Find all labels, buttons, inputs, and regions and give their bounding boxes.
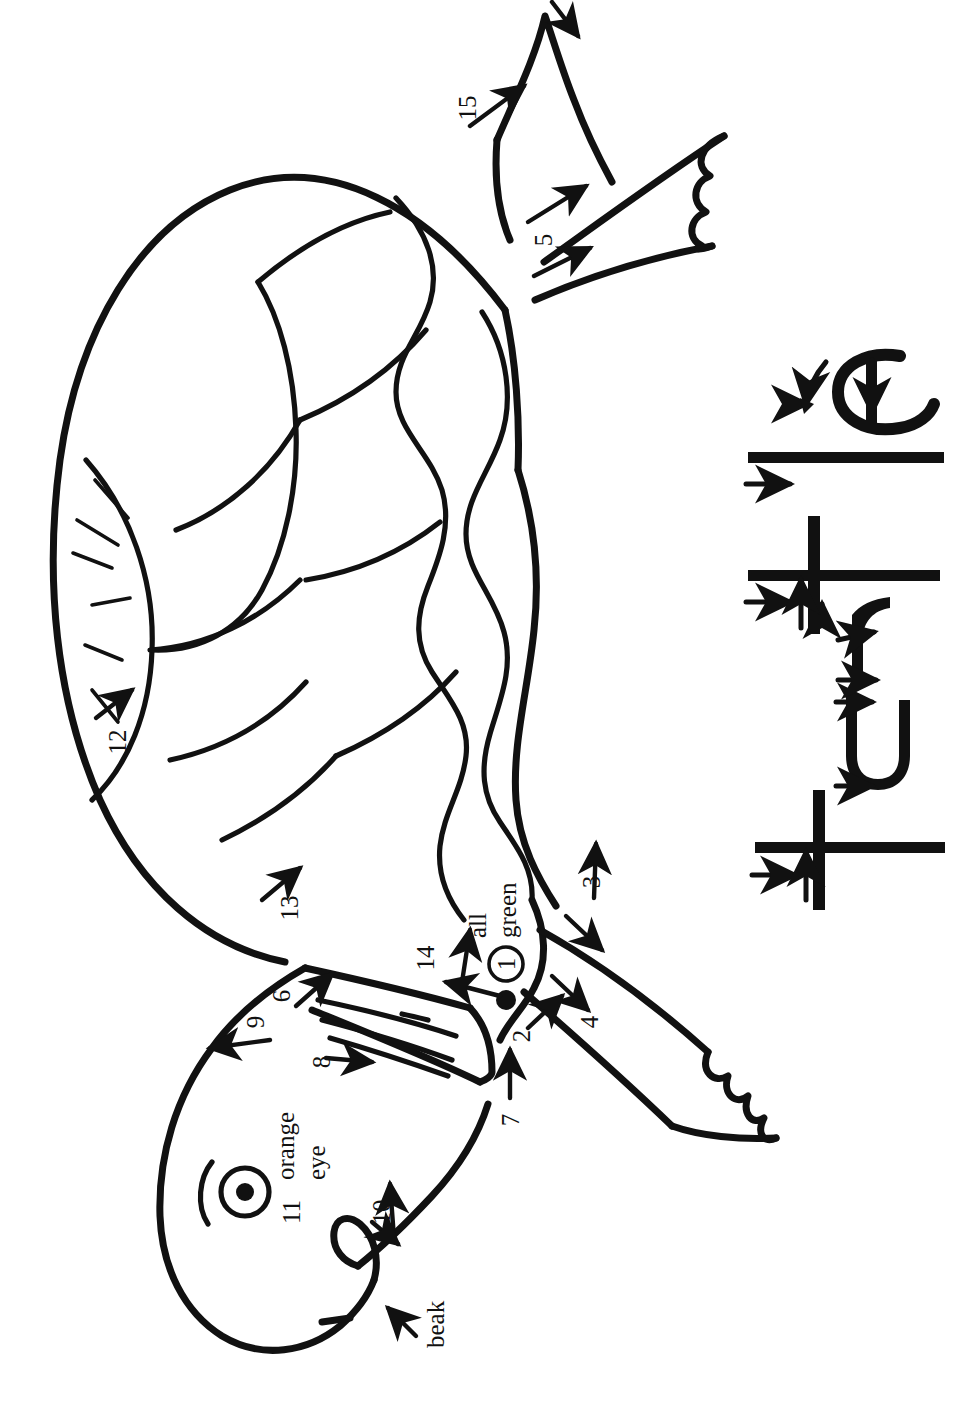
label-9: 9 bbox=[242, 1016, 269, 1029]
all-green-line1: all bbox=[464, 913, 491, 938]
label-3: 3 bbox=[578, 876, 605, 889]
label-12: 12 bbox=[104, 730, 131, 755]
worksheet-page: 15 5 12 13 14 3 4 2 7 6 8 9 10 11 orange… bbox=[0, 0, 955, 1408]
circled-one-number: 1 bbox=[493, 958, 520, 971]
orange-eye-line2: eye bbox=[303, 1145, 330, 1180]
eye-pupil bbox=[236, 1183, 254, 1201]
label-4: 4 bbox=[576, 1015, 603, 1028]
mouth-dash bbox=[322, 1318, 350, 1322]
turtle-worksheet-illustration: 15 5 12 13 14 3 4 2 7 6 8 9 10 11 orange… bbox=[0, 0, 955, 1408]
label-10: 10 bbox=[368, 1200, 395, 1225]
letter-l-stem bbox=[748, 452, 944, 463]
label-7: 7 bbox=[497, 1114, 524, 1127]
label-13: 13 bbox=[276, 896, 303, 921]
letter-t1-crossbar bbox=[755, 842, 945, 853]
label-6: 6 bbox=[268, 990, 295, 1003]
label-8: 8 bbox=[308, 1056, 335, 1069]
letter-u-left-top bbox=[846, 694, 858, 700]
all-green-line2: green bbox=[494, 882, 521, 938]
arrow-3 bbox=[594, 844, 596, 898]
label-2: 2 bbox=[508, 1030, 535, 1043]
letter-t2-crossbar bbox=[748, 570, 940, 581]
label-14: 14 bbox=[412, 945, 439, 971]
label-11: 11 bbox=[278, 1200, 305, 1224]
label-15: 15 bbox=[454, 96, 481, 121]
start-point-dot bbox=[496, 990, 516, 1010]
label-beak: beak bbox=[422, 1300, 449, 1348]
label-5: 5 bbox=[530, 234, 557, 247]
orange-eye-line1: orange bbox=[272, 1112, 299, 1180]
